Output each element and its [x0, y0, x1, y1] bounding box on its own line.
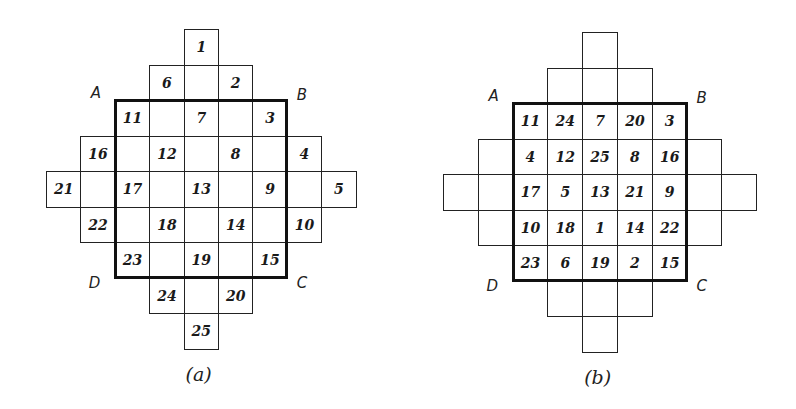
grid-cell [80, 171, 115, 208]
grid-cell: 23 [115, 242, 150, 279]
corner-label-d: D [89, 274, 101, 292]
grid-cell [184, 207, 219, 244]
corner-label-c: C [297, 274, 307, 292]
grid-cell: 18 [547, 210, 583, 247]
grid-cell: 12 [547, 139, 583, 176]
grid-cell: 16 [652, 139, 688, 176]
grid-cell: 2 [617, 245, 653, 282]
grid-cell: 4 [287, 136, 322, 173]
grid-cell: 10 [513, 210, 549, 247]
grid-cell [149, 100, 184, 137]
grid-cell: 19 [582, 245, 618, 282]
corner-label-a: A [91, 84, 101, 102]
grid-cell: 11 [513, 103, 549, 140]
grid-cell: 17 [115, 171, 150, 208]
grid-cell: 12 [149, 136, 184, 173]
grid-cell [218, 171, 253, 208]
grid-cell: 14 [617, 210, 653, 247]
grid-cell [115, 136, 150, 173]
corner-label-b: B [297, 86, 307, 104]
grid-cell [582, 316, 618, 353]
grid-cell: 2 [218, 65, 253, 102]
grid-cell: 6 [547, 245, 583, 282]
grid-cell [547, 68, 583, 105]
grid-cell: 3 [652, 103, 688, 140]
grid-cell: 22 [652, 210, 688, 247]
grid-cell [184, 65, 219, 102]
grid-cell: 16 [80, 136, 115, 173]
grid-cell [478, 210, 514, 247]
grid-cell: 13 [582, 174, 618, 211]
grid-cell [478, 174, 514, 211]
grid-cell: 17 [513, 174, 549, 211]
grid-cell [582, 32, 618, 69]
corner-label-a: A [489, 87, 499, 105]
grid-cell [252, 207, 287, 244]
grid-cell [687, 174, 723, 211]
grid-cell: 1 [582, 210, 618, 247]
grid-cell [115, 207, 150, 244]
grid-cell [184, 136, 219, 173]
grid-cell [617, 68, 653, 105]
grid-cell [184, 278, 219, 315]
grid-cell: 24 [547, 103, 583, 140]
grid-cell [287, 171, 322, 208]
grid-cell: 13 [184, 171, 219, 208]
grid-cell [617, 281, 653, 318]
grid-cell: 8 [617, 139, 653, 176]
grid-cell: 24 [149, 278, 184, 315]
grid-cell: 7 [184, 100, 219, 137]
grid-cell [721, 174, 757, 211]
grid-cell: 10 [287, 207, 322, 244]
grid-cell: 20 [218, 278, 253, 315]
grid-cell [252, 136, 287, 173]
corner-label-d: D [487, 277, 499, 295]
grid-cell: 9 [652, 174, 688, 211]
grid-cell: 25 [184, 313, 219, 350]
grid-cell: 15 [252, 242, 287, 279]
grid-cell: 15 [652, 245, 688, 282]
grid-cell [547, 281, 583, 318]
grid-cell: 9 [252, 171, 287, 208]
grid-cell: 6 [149, 65, 184, 102]
grid-cell [478, 139, 514, 176]
grid-cell: 11 [115, 100, 150, 137]
grid-cell [582, 281, 618, 318]
grid-cell: 3 [252, 100, 287, 137]
grid-cell [149, 171, 184, 208]
grid-cell [149, 242, 184, 279]
grid-cell: 8 [218, 136, 253, 173]
grid-cell: 23 [513, 245, 549, 282]
grid-cell [687, 139, 723, 176]
corner-label-b: B [697, 89, 707, 107]
grid-cell: 1 [184, 29, 219, 66]
grid-cell: 25 [582, 139, 618, 176]
grid-cell [443, 174, 479, 211]
grid-cell: 18 [149, 207, 184, 244]
grid-cell [582, 68, 618, 105]
grid-cell: 7 [582, 103, 618, 140]
figure-caption: (a) [186, 363, 212, 385]
grid-cell: 4 [513, 139, 549, 176]
grid-cell: 21 [46, 171, 81, 208]
grid-cell [687, 210, 723, 247]
grid-cell: 19 [184, 242, 219, 279]
grid-cell [218, 242, 253, 279]
grid-cell: 5 [321, 171, 356, 208]
corner-label-c: C [697, 277, 707, 295]
figure-caption: (b) [584, 366, 611, 388]
grid-cell: 21 [617, 174, 653, 211]
grid-cell [218, 100, 253, 137]
grid-cell: 22 [80, 207, 115, 244]
grid-cell: 14 [218, 207, 253, 244]
grid-cell: 20 [617, 103, 653, 140]
grid-cell: 5 [547, 174, 583, 211]
